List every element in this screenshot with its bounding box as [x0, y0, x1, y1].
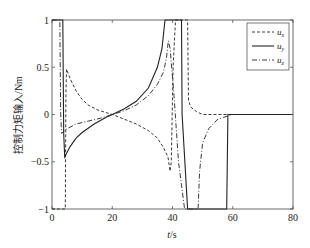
legend: uxuyuz: [247, 23, 289, 70]
x-tick-label: 80: [288, 212, 298, 223]
x-axis-label: t/s: [167, 229, 177, 240]
x-tick-labels: 020406080: [50, 212, 299, 223]
y-tick-label: −0.5: [31, 156, 49, 167]
x-tick-label: 60: [228, 212, 238, 223]
x-tick-label: 0: [50, 212, 55, 223]
x-tick-label: 20: [107, 212, 117, 223]
y-tick-label: 0: [44, 109, 49, 120]
y-tick-label: 1: [44, 15, 49, 26]
y-tick-label: −1: [38, 204, 49, 215]
y-tick-labels: −1−0.500.51: [31, 15, 49, 215]
x-axis-label-unit: /s: [170, 229, 177, 240]
y-axis-label: 控制力矩输入/Nm: [12, 76, 24, 154]
y-tick-label: 0.5: [37, 62, 50, 73]
x-tick-label: 40: [168, 212, 178, 223]
line-chart: 020406080 −1−0.500.51 t/s 控制力矩输入/Nm uxuy…: [0, 0, 310, 248]
